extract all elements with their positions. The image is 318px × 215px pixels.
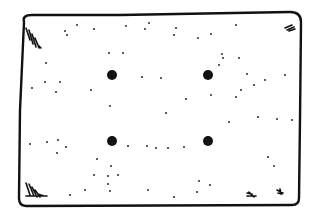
small-dot [122, 52, 124, 54]
small-dot [218, 64, 220, 66]
small-dot [55, 91, 57, 93]
small-dot [110, 165, 112, 167]
small-dot [210, 94, 212, 96]
small-dot [69, 194, 71, 196]
small-dot [253, 84, 255, 86]
small-dot [267, 156, 269, 158]
small-dot [209, 184, 211, 186]
small-dot [173, 34, 175, 36]
small-dot [246, 73, 248, 75]
small-dot [57, 139, 59, 141]
small-dot [107, 183, 109, 185]
small-dot [276, 118, 278, 120]
small-dot [127, 145, 129, 147]
small-dot [45, 62, 47, 64]
corner-hatch-marks [26, 25, 295, 197]
small-dot [167, 147, 169, 149]
small-dot [264, 79, 266, 81]
small-dot [284, 74, 286, 76]
small-dot [221, 53, 223, 55]
big-dot [107, 70, 117, 80]
small-dot [46, 141, 48, 143]
small-dot [196, 191, 198, 193]
bottom-left-hatch-icon [26, 183, 47, 197]
top-left-hatch-icon [26, 28, 41, 48]
small-dot [144, 28, 146, 30]
small-dot [198, 180, 200, 182]
small-dot [197, 37, 199, 39]
small-dot [291, 119, 293, 121]
small-dot [109, 190, 111, 192]
small-dot [222, 57, 224, 59]
small-dot [183, 146, 185, 148]
big-dot [203, 136, 213, 146]
small-dot [84, 189, 86, 191]
small-dot [65, 146, 67, 148]
small-dot [93, 28, 95, 30]
small-dot [117, 174, 119, 176]
small-dot [165, 112, 167, 114]
small-dot [90, 89, 92, 91]
bottom-right-hatch-2-icon [277, 189, 283, 194]
small-dot [148, 22, 150, 24]
small-dot [155, 147, 157, 149]
small-dot [146, 145, 148, 147]
small-dot [210, 33, 212, 35]
small-dot [235, 24, 237, 26]
small-dot [107, 175, 109, 177]
small-dot [56, 152, 58, 154]
small-dot [109, 105, 111, 107]
small-dot [185, 98, 187, 100]
small-dot [93, 174, 95, 176]
small-dot [29, 143, 31, 145]
small-dot [59, 81, 61, 83]
drawing-canvas [0, 0, 318, 215]
big-dot [107, 136, 117, 146]
top-right-hatch-icon [285, 25, 295, 31]
big-dots [107, 70, 213, 146]
small-dot [31, 87, 33, 89]
small-dot [257, 116, 259, 118]
small-dot [238, 57, 240, 59]
small-dot [147, 189, 149, 191]
small-dots [29, 22, 293, 198]
small-dot [44, 81, 46, 83]
small-dot [141, 76, 143, 78]
bottom-right-hatch-1-icon [247, 192, 256, 197]
small-dot [76, 24, 78, 26]
small-dot [175, 27, 177, 29]
small-dot [66, 34, 68, 36]
small-dot [228, 121, 230, 123]
small-dot [108, 52, 110, 54]
small-dot [96, 158, 98, 160]
small-dot [160, 77, 162, 79]
rectangle-outline [19, 12, 301, 206]
small-dot [273, 165, 275, 167]
small-dot [125, 25, 127, 27]
small-dot [235, 96, 237, 98]
big-dot [203, 70, 213, 80]
small-dot [173, 196, 175, 198]
small-dot [240, 89, 242, 91]
small-dot [64, 30, 66, 32]
